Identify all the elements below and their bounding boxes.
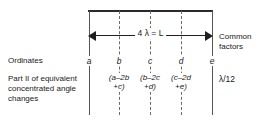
row-label-part-ii: Part II of equivalent concentrated angle… — [8, 74, 86, 104]
dimension-label: 4 λ = L — [135, 28, 167, 39]
formula-line-1: (c–2d — [171, 73, 191, 82]
formula-line-2: +c) — [109, 82, 129, 91]
formula-line-1: (b–2c — [140, 73, 160, 82]
formula-line-2: +d) — [140, 82, 160, 91]
arrow-left-icon — [88, 31, 96, 41]
figure-canvas: 4 λ = L Ordinates Part II of equivalent … — [0, 0, 268, 122]
ordinate-label-b: b — [115, 56, 124, 66]
ordinate-label-a: a — [85, 56, 94, 66]
dimension-arrow: 4 λ = L — [88, 31, 213, 41]
arrow-right-icon — [205, 31, 213, 41]
formula-group-3: (c–2d+e) — [170, 73, 192, 92]
formula-group-2: (b–2c+d) — [139, 73, 161, 92]
lambda-factor-label: λ/12 — [219, 74, 235, 84]
formula-group-1: (a–2b+c) — [108, 73, 130, 92]
common-factors-label: Common factors — [219, 32, 265, 52]
formula-line-2: +e) — [171, 82, 191, 91]
ordinate-label-e: e — [208, 56, 217, 66]
formula-line-1: (a–2b — [109, 73, 129, 82]
ordinate-label-d: d — [177, 56, 186, 66]
ordinate-label-c: c — [146, 56, 154, 66]
row-label-ordinates: Ordinates — [8, 56, 43, 66]
